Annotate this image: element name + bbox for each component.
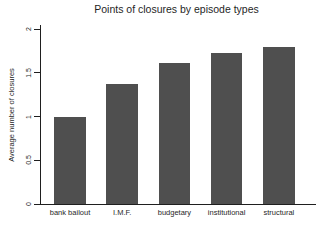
y-axis-line — [40, 25, 41, 205]
y-tick-label: 1.5 — [25, 68, 32, 78]
chart-title: Points of closures by episode types — [37, 3, 316, 15]
y-tick-mark — [34, 29, 40, 30]
y-axis-label: Average number of closures — [7, 68, 16, 162]
x-category-label: budgetary — [158, 208, 191, 217]
x-category-label: structural — [263, 208, 294, 217]
y-tick-label: 1 — [25, 115, 32, 119]
bar-budgetary — [159, 63, 191, 204]
x-category-label: bank bailout — [50, 208, 90, 217]
bar-structural — [263, 47, 295, 205]
y-tick-label: 0.5 — [25, 155, 32, 165]
y-tick-label: 0 — [25, 202, 32, 206]
y-tick-mark — [34, 116, 40, 117]
x-category-label: I.M.F. — [113, 208, 131, 217]
bar-chart-figure: Points of closures by episode types Aver… — [0, 0, 322, 227]
y-tick-mark — [34, 160, 40, 161]
bar-bank-bailout — [54, 117, 86, 205]
x-axis-line — [37, 204, 316, 205]
y-tick-mark — [34, 72, 40, 73]
x-category-label: institutional — [208, 208, 246, 217]
y-tick-label: 2 — [25, 27, 32, 31]
bar-i-m-f- — [106, 84, 138, 204]
y-tick-mark — [34, 204, 40, 205]
bar-institutional — [211, 53, 243, 204]
